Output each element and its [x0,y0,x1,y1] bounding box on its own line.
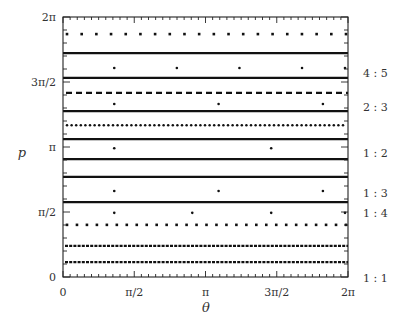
y-tick-label: π/2 [38,206,56,219]
x-tick-label: 2π [341,286,355,299]
resonance-label: 1 : 1 [363,272,388,285]
orbit-series [66,124,345,127]
x-tick-label: π/2 [125,286,143,299]
x-tick-label: 0 [60,286,67,299]
y-tick-label: 3π/2 [31,76,56,89]
orbit-series [113,212,346,215]
orbit-series [113,103,324,106]
plot-frame [63,17,348,277]
y-tick-labels: 0π/2π3π/22π [31,11,56,284]
orbit-series [66,33,348,36]
phase-portrait-chart: 0π/2π3π/22π 0π/2π3π/22π 4 : 52 : 31 : 21… [0,0,400,330]
y-tick-label: 0 [49,271,56,284]
y-axis-label: p [18,145,27,160]
x-tick-labels: 0π/2π3π/22π [60,286,356,299]
resonance-label: 1 : 3 [363,187,388,200]
x-tick-label: π [202,286,209,299]
resonance-label: 1 : 4 [363,207,388,220]
orbit-series [113,147,273,150]
orbit-series [113,67,346,70]
axis-ticks [63,17,348,277]
y-tick-label: 2π [42,11,56,24]
orbit-series [113,190,324,193]
orbit-series [66,224,348,227]
resonance-label: 2 : 3 [363,101,388,114]
x-tick-label: 3π/2 [264,286,289,299]
resonance-label: 4 : 5 [363,67,388,80]
resonance-label: 1 : 2 [363,147,388,160]
orbit-layer [63,33,348,262]
x-axis-label: θ [202,300,210,315]
resonance-labels: 4 : 52 : 31 : 21 : 31 : 41 : 1 [363,67,388,285]
y-tick-label: π [49,141,56,154]
